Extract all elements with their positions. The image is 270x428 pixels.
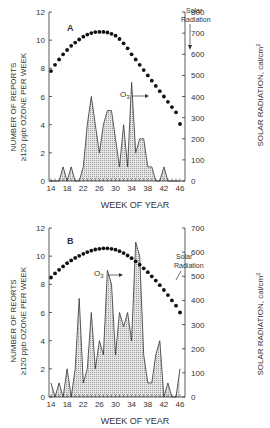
y-tick-label: 8 [41,280,46,289]
x-tick-label: 42 [159,184,168,193]
y2-tick-label: 200 [191,345,205,354]
panel-label: B [67,236,74,246]
y-tick-label: 12 [36,8,45,17]
x-tick-label: 46 [176,400,185,409]
solar-radiation-point [89,249,93,253]
solar-radiation-point [49,276,53,280]
solar-radiation-point [118,249,122,253]
y-tick-label: 10 [36,252,45,261]
solar-radiation-point [102,30,106,34]
y2-tick-label: 700 [191,29,205,38]
solar-radiation-point [122,41,126,45]
solar-radiation-label: Solar [186,7,203,14]
solar-radiation-point [85,250,89,254]
solar-radiation-point [65,48,69,52]
solar-radiation-point [53,272,57,276]
y-tick-label: 10 [36,36,45,45]
solar-radiation-point [77,254,81,258]
y-tick-label: 4 [41,121,46,130]
solar-radiation-point [77,38,81,42]
y2-tick-label: 300 [191,114,205,123]
x-axis-title: WEEK OF YEAR [101,200,170,210]
panel-b-chart: 0246810121418222630343842460100200300400… [0,214,270,428]
x-tick-label: 18 [63,400,72,409]
solar-radiation-point [53,63,57,67]
x-tick-label: 14 [47,400,56,409]
y2-tick-label: 600 [191,248,205,257]
solar-radiation-point [170,299,174,303]
solar-radiation-point [130,256,134,260]
x-tick-label: 14 [47,184,56,193]
solar-radiation-point [81,252,85,256]
x-tick-label: 22 [79,184,88,193]
solar-radiation-point [122,251,126,255]
y2-tick-label: 0 [191,177,196,186]
solar-radiation-point [98,30,102,34]
solar-radiation-point [134,58,138,62]
solar-radiation-point [146,74,150,78]
y-tick-label: 2 [41,149,46,158]
solar-radiation-point [126,46,130,50]
solar-radiation-point [138,263,142,267]
solar-arrowhead-icon [188,45,192,50]
solar-radiation-point [106,31,110,35]
o3-area [51,242,180,397]
solar-radiation-point [142,68,146,72]
y2-axis-title: SOLAR RADIATION, cal/cm2 [255,272,265,376]
solar-radiation-point [81,35,85,39]
y2-tick-label: 700 [191,224,205,233]
solar-radiation-point [73,256,77,260]
solar-radiation-point [110,247,114,251]
o3-arrowhead-icon [145,94,149,98]
y-tick-label: 12 [36,224,45,233]
y2-tick-label: 500 [191,272,205,281]
solar-radiation-label-line2: Radiation [174,262,204,269]
solar-radiation-point [85,33,89,37]
x-tick-label: 34 [127,184,136,193]
solar-radiation-point [118,37,122,41]
x-tick-label: 34 [127,400,136,409]
x-tick-label: 38 [143,400,152,409]
solar-radiation-point [178,122,182,126]
y2-tick-label: 500 [191,71,205,80]
y2-tick-label: 100 [191,156,205,165]
solar-radiation-point [57,268,61,272]
solar-radiation-point [73,41,77,45]
solar-radiation-point [102,246,106,250]
y-tick-label: 6 [41,309,46,318]
solar-radiation-point [170,105,174,109]
solar-radiation-point [69,259,73,263]
solar-radiation-point [178,311,182,315]
y2-tick-label: 200 [191,135,205,144]
solar-radiation-point [150,79,154,83]
solar-radiation-point [65,261,69,265]
solar-radiation-point [114,248,118,252]
solar-radiation-point [126,254,130,258]
x-tick-label: 30 [111,400,120,409]
solar-radiation-point [110,32,114,36]
x-tick-label: 22 [79,400,88,409]
o3-label: O3 [120,90,130,100]
solar-radiation-point [154,279,158,283]
x-tick-label: 30 [111,184,120,193]
y2-axis-title: SOLAR RADIATION, cal/cm2 [255,43,265,147]
solar-radiation-point [106,246,110,250]
solar-radiation-point [93,248,97,252]
y2-tick-label: 0 [191,393,196,402]
solar-radiation-point [69,44,73,48]
solar-radiation-point [89,31,93,35]
y2-tick-label: 300 [191,321,205,330]
y-tick-label: 0 [41,393,46,402]
solar-radiation-point [61,52,65,56]
o3-arrowhead-icon [119,273,123,277]
y-axis-title-line2: ≥120 ppb OZONE PER WEEK [19,266,28,375]
panel-a-chart: 0246810121418222630343842460100200300400… [0,0,270,214]
solar-radiation-point [150,274,154,278]
x-tick-label: 26 [95,184,104,193]
y2-tick-label: 100 [191,369,205,378]
solar-radiation-point [130,52,134,56]
solar-radiation-point [49,69,53,73]
solar-radiation-point [174,110,178,114]
y-axis-title: NUMBER OF REORTS [9,279,18,362]
y2-tick-label: 400 [191,93,205,102]
